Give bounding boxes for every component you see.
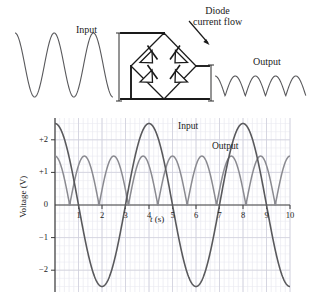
diode-lower-left <box>140 65 158 82</box>
input-waveform-label: Input <box>76 25 97 36</box>
chart-annotation-input: Input <box>178 122 198 132</box>
x-tick-label: 2 <box>95 210 109 220</box>
x-tick-label: 6 <box>189 210 203 220</box>
y-tick-label: −1 <box>28 232 48 242</box>
x-tick-label: 10 <box>283 210 297 220</box>
output-terminal-bracket <box>208 65 214 101</box>
chart <box>51 118 290 292</box>
bridge-diamond-arms <box>131 33 196 99</box>
output-waveform-label: Output <box>253 57 281 68</box>
chart-annotation-output: Output <box>212 142 238 152</box>
y-tick-label: +2 <box>28 134 48 144</box>
top-output-waveform <box>215 76 306 96</box>
x-tick-label: 1 <box>72 210 86 220</box>
y-tick-label: 0 <box>28 199 48 209</box>
x-tick-label: 4 <box>142 210 156 220</box>
y-tick-label: +1 <box>28 166 48 176</box>
diode-label-line1: Diode <box>193 6 242 17</box>
x-tick-label: 5 <box>166 210 180 220</box>
x-tick-label: 8 <box>236 210 250 220</box>
y-tick-label: −2 <box>28 264 48 274</box>
x-tick-label: 7 <box>213 210 227 220</box>
figure-bridge-rectifier: Input Output Diode current flow Input Ou… <box>0 0 311 308</box>
diode-label-line2: current flow <box>193 17 242 28</box>
x-tick-label: 3 <box>119 210 133 220</box>
diode-current-flow-label: Diode current flow <box>193 6 242 27</box>
input-terminal-bracket <box>116 33 122 101</box>
diode-lower-right <box>170 65 188 82</box>
x-tick-label: 9 <box>260 210 274 220</box>
figure-canvas <box>0 0 311 308</box>
top-input-waveform <box>15 33 113 97</box>
